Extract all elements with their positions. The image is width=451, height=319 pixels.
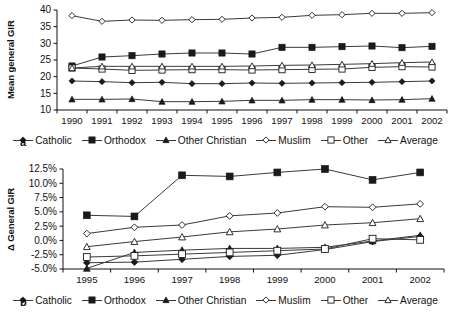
legend-label: Other	[343, 295, 368, 306]
data-point-orthodox	[129, 53, 135, 59]
legend-item-other-christian[interactable]: Other Christian	[156, 295, 247, 306]
legend-line	[82, 300, 102, 301]
panel-a-legend: CatholicOrthodoxOther ChristianMuslimOth…	[0, 130, 451, 150]
data-point-muslim	[69, 13, 75, 19]
legend-label: Other Christian	[178, 135, 247, 146]
x-tick-label: 1991	[91, 115, 112, 124]
y-tick-label: 10.0%	[29, 178, 57, 189]
data-point-muslim	[309, 12, 315, 18]
data-point-catholic	[369, 79, 375, 85]
legend-item-orthodox[interactable]: Orthodox	[82, 295, 146, 306]
data-point-orthodox	[339, 44, 345, 50]
data-point-muslim	[219, 16, 225, 22]
data-point-muslim	[339, 12, 345, 18]
data-point-muslim	[417, 200, 424, 207]
y-tick-label: 12.5%	[29, 163, 57, 174]
legend-item-muslim[interactable]: Muslim	[256, 295, 310, 306]
data-point-orthodox	[189, 50, 195, 56]
legend-marker-filled-square	[86, 134, 98, 146]
data-point-muslim	[226, 212, 233, 219]
data-point-other	[274, 247, 281, 254]
x-tick-label: 1997	[271, 115, 292, 124]
legend-item-other-christian[interactable]: Other Christian	[156, 135, 247, 146]
x-tick-label: 1995	[76, 274, 97, 283]
legend-marker-open-diamond	[260, 134, 272, 146]
data-point-muslim	[249, 15, 255, 21]
y-tick-label: 40	[40, 4, 52, 15]
data-point-muslim	[131, 224, 138, 231]
data-point-orthodox	[369, 176, 376, 183]
data-point-muslim	[429, 10, 435, 16]
data-point-other	[226, 249, 233, 256]
legend-line	[378, 140, 398, 141]
data-point-muslim	[399, 10, 405, 16]
y-tick-label: 2.5%	[34, 221, 57, 232]
y-tick-label: 25	[40, 54, 52, 65]
x-tick-label: 2000	[314, 274, 335, 283]
legend-line	[256, 140, 276, 141]
x-tick-label: 1999	[267, 274, 288, 283]
legend-marker-filled-triangle	[160, 134, 172, 146]
data-point-orthodox	[429, 43, 435, 49]
x-tick-label: 1990	[61, 115, 82, 124]
y-tick-label: 15	[40, 88, 52, 99]
data-point-orthodox	[417, 169, 424, 176]
marker-open-square	[328, 297, 334, 303]
y-tick-label: -5.0%	[31, 263, 57, 274]
x-tick-label: 1995	[211, 115, 232, 124]
legend-item-other[interactable]: Other	[321, 295, 368, 306]
y-tick-label: 5.0%	[34, 206, 57, 217]
panel-b: Δ General GIR -5.0%-2.5%0.0%2.5%5.0%7.5%…	[0, 159, 451, 319]
x-tick-label: 1997	[171, 274, 192, 283]
data-point-muslim	[83, 230, 90, 237]
legend-line	[378, 300, 398, 301]
legend-line	[82, 140, 102, 141]
legend-item-average[interactable]: Average	[378, 135, 438, 146]
data-point-catholic	[339, 80, 345, 86]
legend-label: Average	[400, 135, 438, 146]
marker-open-diamond	[263, 137, 269, 143]
legend-item-average[interactable]: Average	[378, 295, 438, 306]
y-tick-label: -2.5%	[31, 249, 57, 260]
data-point-muslim	[369, 10, 375, 16]
x-tick-label: 2001	[391, 115, 412, 124]
legend-label: Muslim	[278, 135, 310, 146]
panel-b-tag: b	[20, 296, 27, 308]
data-point-orthodox	[279, 44, 285, 50]
marker-open-square	[328, 137, 334, 143]
data-point-catholic	[249, 80, 255, 86]
legend-item-muslim[interactable]: Muslim	[256, 135, 310, 146]
legend-item-other[interactable]: Other	[321, 135, 368, 146]
legend-label: Catholic	[35, 295, 72, 306]
marker-open-diamond	[263, 297, 269, 303]
data-point-catholic	[189, 81, 195, 87]
legend-marker-open-diamond	[260, 294, 272, 306]
legend-item-orthodox[interactable]: Orthodox	[82, 135, 146, 146]
data-point-muslim	[99, 18, 105, 24]
x-tick-label: 1996	[124, 274, 145, 283]
y-tick-label: 35	[40, 21, 52, 32]
data-point-other	[83, 254, 90, 261]
panel-a: Mean general GIR 10152025303540199019911…	[0, 0, 451, 159]
data-point-other	[417, 236, 424, 243]
legend-line	[156, 300, 176, 301]
y-tick-label: 0.0%	[34, 235, 57, 246]
x-tick-label: 2001	[362, 274, 383, 283]
data-point-orthodox	[309, 44, 315, 50]
data-point-orthodox	[369, 43, 375, 49]
data-point-orthodox	[179, 172, 186, 179]
data-point-catholic	[129, 80, 135, 86]
data-point-muslim	[159, 17, 165, 23]
legend-label: Orthodox	[104, 135, 146, 146]
panel-a-tag: a	[20, 136, 26, 148]
data-point-orthodox	[249, 51, 255, 57]
legend-marker-open-triangle	[382, 294, 394, 306]
legend-marker-open-triangle	[382, 134, 394, 146]
marker-filled-square	[89, 297, 95, 303]
x-tick-label: 1992	[121, 115, 142, 124]
data-point-orthodox	[219, 50, 225, 56]
data-point-catholic	[429, 78, 435, 84]
legend-marker-open-square	[325, 294, 337, 306]
data-point-catholic	[309, 80, 315, 86]
x-tick-label: 2002	[410, 274, 431, 283]
